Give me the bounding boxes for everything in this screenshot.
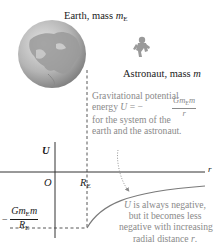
earth-radius-tick-label: RE <box>80 178 91 190</box>
formula-annotation-line2: energy U = − GmEm r <box>92 101 182 114</box>
earth-radius-subscript: E <box>86 182 90 190</box>
negative-annotation-line1: U is always negative, <box>119 199 211 210</box>
negative-annotation-line4: radial distance r. <box>119 233 211 244</box>
u-axis-label: U <box>42 146 50 157</box>
astronaut-label-text: Astronaut, mass <box>123 68 193 79</box>
formula-annotation: Gravitational potential energy U = − GmE… <box>92 90 182 137</box>
formula-annotation-line4: earth and the astronaut. <box>92 125 182 136</box>
negative-annotation-line2: but it becomes less <box>119 210 211 221</box>
formula-fraction: GmEm r <box>172 96 196 118</box>
min-value-numerator: GmEm <box>10 206 38 220</box>
astronaut-label: Astronaut, mass m <box>123 69 201 80</box>
astronaut-mass-symbol: m <box>193 68 201 79</box>
earth-mass-subscript: E <box>123 15 127 23</box>
astronaut-icon <box>133 37 150 57</box>
formula-annotation-line1: Gravitational potential <box>92 90 182 101</box>
minus-sign: − <box>2 214 8 225</box>
r-axis-label: r <box>208 165 212 174</box>
min-value-label: − GmEm RE <box>2 206 38 233</box>
earth-label: Earth, mass mE <box>64 11 128 23</box>
min-value-fraction: GmEm RE <box>10 206 38 233</box>
earth-globe-icon <box>18 20 86 88</box>
negative-annotation: U is always negative, but it becomes les… <box>119 199 211 244</box>
earth-label-text: Earth, mass <box>64 10 116 21</box>
min-value-denominator: RE <box>10 220 38 233</box>
annotation-pointer-arrow <box>117 150 128 190</box>
negative-annotation-line3: negative with increasing <box>119 221 211 232</box>
origin-label: O <box>44 178 52 189</box>
formula-annotation-line3: for the system of the <box>92 114 182 125</box>
